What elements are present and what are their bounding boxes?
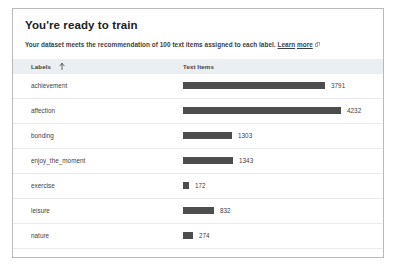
bar-value-label: 274 bbox=[199, 232, 210, 239]
row-bar-cell: 832 bbox=[183, 198, 383, 223]
bar-value-label: 1303 bbox=[238, 132, 252, 139]
sort-ascending-arrow-icon[interactable] bbox=[59, 63, 65, 70]
column-header-labels-text: Labels bbox=[31, 63, 51, 70]
learn-more-label-1: Learn bbox=[277, 41, 295, 48]
row-bar-cell: 3791 bbox=[183, 74, 383, 99]
learn-more-label-2: more bbox=[297, 41, 313, 48]
row-label: bonding bbox=[13, 123, 183, 148]
bar-wrapper: 832 bbox=[183, 199, 383, 223]
text-items-bar bbox=[183, 232, 193, 239]
window-frame: You're ready to train Your dataset meets… bbox=[12, 8, 384, 258]
row-label: nature bbox=[13, 223, 183, 248]
row-label: achievement bbox=[13, 74, 183, 99]
card-header: You're ready to train Your dataset meets… bbox=[13, 9, 383, 50]
screenshot-root: You're ready to train Your dataset meets… bbox=[0, 0, 396, 272]
row-label: affection bbox=[13, 98, 183, 123]
text-items-bar bbox=[183, 107, 341, 114]
column-header-text-items[interactable]: Text Items bbox=[183, 59, 383, 74]
bar-value-label: 4232 bbox=[347, 107, 361, 114]
bar-wrapper: 274 bbox=[183, 224, 383, 248]
text-items-bar bbox=[183, 207, 214, 214]
bar-wrapper: 1343 bbox=[183, 149, 383, 173]
labels-table-body: achievement3791affection4232bonding1303e… bbox=[13, 74, 383, 249]
table-row[interactable]: affection4232 bbox=[13, 98, 383, 123]
column-header-labels[interactable]: Labels bbox=[13, 59, 183, 74]
row-bar-cell: 274 bbox=[183, 223, 383, 248]
bar-value-label: 1343 bbox=[239, 157, 253, 164]
table-row[interactable]: bonding1303 bbox=[13, 123, 383, 148]
row-bar-cell: 4232 bbox=[183, 98, 383, 123]
bar-value-label: 832 bbox=[220, 207, 231, 214]
text-items-bar bbox=[183, 82, 325, 89]
bar-wrapper: 3791 bbox=[183, 74, 383, 98]
bar-wrapper: 172 bbox=[183, 174, 383, 198]
table-row[interactable]: enjoy_the_moment1343 bbox=[13, 148, 383, 173]
bar-wrapper: 1303 bbox=[183, 124, 383, 148]
learn-more-link-part2[interactable]: more bbox=[297, 41, 313, 48]
labels-table: Labels Text Items achievement3791affecti… bbox=[13, 59, 383, 249]
table-header-row: Labels Text Items bbox=[13, 59, 383, 74]
text-items-bar bbox=[183, 132, 232, 139]
table-row[interactable]: leisure832 bbox=[13, 198, 383, 223]
bar-value-label: 172 bbox=[195, 182, 206, 189]
page-title: You're ready to train bbox=[25, 19, 371, 32]
card-subtitle: Your dataset meets the recommendation of… bbox=[25, 39, 345, 50]
bar-wrapper: 4232 bbox=[183, 99, 383, 123]
learn-more-link-part1[interactable]: Learn bbox=[277, 41, 295, 48]
table-row[interactable]: nature274 bbox=[13, 223, 383, 248]
row-bar-cell: 1303 bbox=[183, 123, 383, 148]
table-row[interactable]: achievement3791 bbox=[13, 74, 383, 99]
row-label: exercise bbox=[13, 173, 183, 198]
row-label: leisure bbox=[13, 198, 183, 223]
labels-table-head: Labels Text Items bbox=[13, 59, 383, 74]
table-row[interactable]: exercise172 bbox=[13, 173, 383, 198]
column-header-text-items-text: Text Items bbox=[183, 63, 214, 70]
bar-value-label: 3791 bbox=[331, 82, 345, 89]
text-items-bar bbox=[183, 157, 233, 164]
row-label: enjoy_the_moment bbox=[13, 148, 183, 173]
external-link-icon bbox=[315, 42, 320, 47]
ready-to-train-card: You're ready to train Your dataset meets… bbox=[13, 9, 383, 257]
text-items-bar bbox=[183, 182, 189, 189]
subtitle-text: Your dataset meets the recommendation of… bbox=[25, 41, 276, 48]
row-bar-cell: 1343 bbox=[183, 148, 383, 173]
row-bar-cell: 172 bbox=[183, 173, 383, 198]
